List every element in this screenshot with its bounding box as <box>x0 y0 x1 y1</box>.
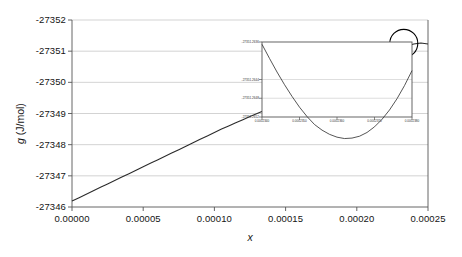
y-axis-tick-label: -27346 <box>6 201 66 212</box>
chart-figure: -27346-27347-27348-27349-27350-27351-273… <box>0 0 462 257</box>
y-axis-title: g (J/mol) <box>14 103 26 144</box>
y-axis-tick-label: -27351 <box>6 45 66 56</box>
inset-y-tick-label: -27351.2644 <box>231 78 259 82</box>
x-axis-tick-label: 0.00020 <box>327 213 387 224</box>
x-axis-tick-label: 0.00010 <box>184 213 244 224</box>
y-axis-tick-label: -27347 <box>6 170 66 181</box>
x-axis-tick-label: 0.00005 <box>113 213 173 224</box>
x-axis-tick-label: 0.00015 <box>256 213 316 224</box>
x-axis-tick-label: 0.00000 <box>42 213 102 224</box>
y-axis-tick-label: -27350 <box>6 76 66 87</box>
inset-y-tick-label: -27351.2648 <box>231 96 259 100</box>
inset-x-tick-label: 0.0002380 <box>398 119 426 123</box>
x-axis-tick-label: 0.00025 <box>398 213 458 224</box>
inset-x-tick-label: 0.0002360 <box>323 119 351 123</box>
inset-x-tick-label: 0.0002350 <box>286 119 314 123</box>
inset-x-tick-label: 0.0002370 <box>361 119 389 123</box>
x-axis-title: x <box>230 231 270 243</box>
y-axis-tick-label: -27352 <box>6 14 66 25</box>
inset-y-tick-label: -27351.2636 <box>231 40 259 44</box>
inset-x-tick-label: 0.0002340 <box>248 119 276 123</box>
